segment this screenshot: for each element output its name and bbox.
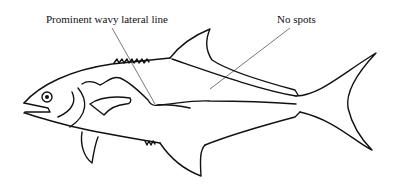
fish-diagram: Prominent wavy lateral line No spots [0, 0, 396, 187]
pectoral-fin [90, 97, 131, 115]
anal-fin [160, 143, 205, 176]
fish-belly-outline [25, 113, 160, 143]
mouth [24, 103, 50, 113]
pelvic-fin [81, 132, 98, 163]
dorsal-fin [170, 29, 298, 95]
tail-fin [296, 53, 376, 150]
leader-line-lateral [112, 28, 155, 104]
ventral-spines [145, 141, 155, 145]
fish-illustration [0, 0, 396, 187]
anal-fin-upper [205, 112, 300, 145]
leader-line-spots [210, 28, 290, 89]
pupil [45, 95, 49, 99]
fish-upper-body-outline [172, 59, 296, 96]
lateral-line-tail [158, 105, 190, 108]
gill-cover [58, 92, 74, 117]
